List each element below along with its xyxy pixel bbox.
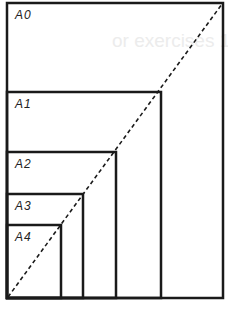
label-a2: A2	[15, 157, 32, 171]
label-a0: A0	[15, 8, 32, 22]
label-a1: A1	[15, 97, 32, 111]
label-a4: A4	[15, 230, 32, 244]
label-a3: A3	[15, 199, 32, 213]
paper-sizes-diagram	[0, 0, 228, 310]
